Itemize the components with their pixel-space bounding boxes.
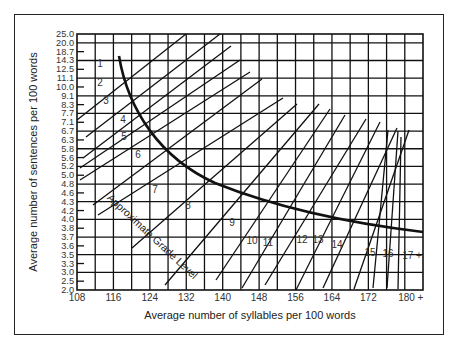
grade-label: 11: [263, 237, 274, 248]
y-axis-labels: 25.020.018.714.312.511.110.09.18.37.77.1…: [56, 29, 74, 295]
grade-label: 15: [364, 247, 376, 258]
x-axis-labels: 108116124132140148156164172180 +: [69, 292, 424, 303]
grade-label: 14: [331, 239, 343, 250]
grade-label: 4: [120, 114, 126, 125]
x-tick-label: 148: [251, 292, 268, 303]
grade-label: 3: [103, 95, 109, 106]
grade-label: 6: [135, 149, 141, 160]
x-tick-label: 116: [105, 292, 121, 303]
grade-label: 12: [296, 234, 308, 245]
grade-label: 16: [382, 248, 394, 259]
grade-label: 7: [152, 184, 158, 195]
x-tick-label: 172: [360, 292, 377, 303]
y-axis-title: Average number of sentences per 100 word…: [27, 52, 39, 272]
x-tick-label: 140: [214, 292, 231, 303]
x-tick-label: 132: [178, 292, 195, 303]
grade-label: 17 +: [402, 250, 422, 261]
x-tick-label: 156: [287, 292, 304, 303]
x-tick-label: 180 +: [398, 292, 423, 303]
grade-level-curve: [119, 56, 423, 232]
x-axis-title: Average number of syllables per 100 word…: [144, 309, 356, 321]
grade-label: 9: [229, 217, 235, 228]
grade-boundary-lines: [77, 34, 409, 290]
grade-label: 1: [97, 58, 103, 69]
grade-label: 2: [97, 77, 103, 88]
x-tick-label: 164: [324, 292, 341, 303]
grade-label: 13: [312, 234, 324, 245]
grade-label: 5: [121, 131, 127, 142]
grade-label: 8: [185, 200, 191, 211]
x-tick-label: 108: [69, 292, 86, 303]
x-tick-label: 124: [141, 292, 158, 303]
grade-label: 10: [246, 235, 258, 246]
fry-readability-graph: 25.020.018.714.312.511.110.09.18.37.77.1…: [0, 0, 460, 353]
